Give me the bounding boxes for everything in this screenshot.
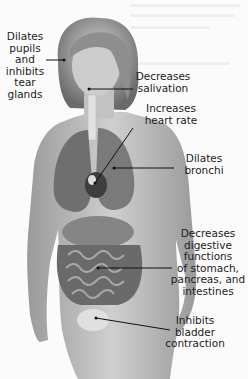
label-bladder: Inhibits bladder contraction	[164, 315, 226, 350]
label-digestive: Decreases digestive functions of stomach…	[170, 228, 246, 297]
label-salivary: Decreases salivation	[132, 71, 194, 94]
label-eyes: Dilates pupils and inhibits tear glands	[4, 31, 46, 100]
stomach-pancreas	[62, 216, 134, 248]
trachea	[88, 95, 96, 140]
heart	[85, 172, 107, 198]
bladder	[77, 309, 109, 331]
label-lungs: Dilates bronchi	[176, 153, 232, 176]
label-heart: Increases heart rate	[140, 103, 202, 126]
